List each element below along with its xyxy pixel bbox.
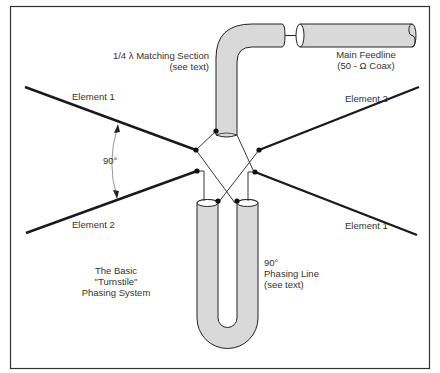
element2-right — [259, 87, 419, 150]
label-angle: 90° — [103, 155, 118, 166]
diagram-title-1: The Basic — [95, 265, 137, 276]
matching-section-coax — [216, 24, 285, 137]
label-phasing-2: Phasing Line — [264, 268, 319, 279]
label-matching-section-2: (see text) — [169, 61, 209, 72]
element1-right — [255, 172, 417, 235]
phasing-line-coax — [197, 200, 258, 349]
label-element2-left: Element 2 — [72, 219, 115, 230]
interconnect-wires — [196, 131, 259, 203]
label-phasing-1: 90° — [264, 257, 279, 268]
label-element1-right: Element 1 — [345, 220, 388, 231]
label-phasing-3: (see text) — [264, 279, 304, 290]
main-feedline-coax — [296, 24, 416, 47]
arrowhead-down-icon — [113, 190, 119, 199]
label-matching-section-1: 1/4 λ Matching Section — [113, 50, 209, 61]
label-feedline-1: Main Feedline — [336, 49, 396, 60]
phasing-line-right-end — [237, 200, 258, 207]
diagram-title-2: "Turnstile" — [95, 276, 138, 287]
diagram-title-3: Phasing System — [82, 287, 151, 298]
turnstile-diagram: Element 1 Element 2 Element 2 Element 1 … — [0, 0, 440, 373]
label-element2-right: Element 2 — [345, 93, 388, 104]
label-feedline-2: (50 - Ω Coax) — [337, 60, 394, 71]
arrowhead-up-icon — [114, 124, 120, 133]
phasing-line-left-end — [197, 200, 218, 207]
label-element1-left: Element 1 — [72, 91, 115, 102]
